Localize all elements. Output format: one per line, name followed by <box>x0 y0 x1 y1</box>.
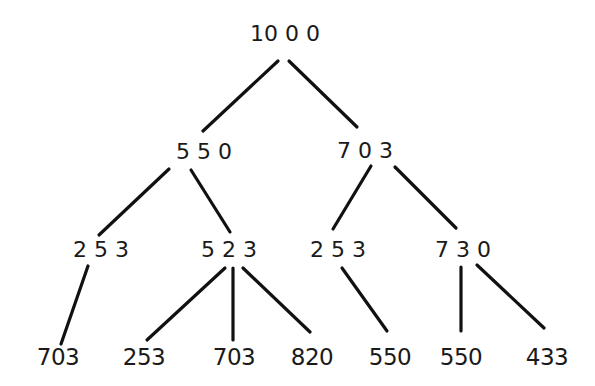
tree-edge-n2-n5 <box>333 166 371 229</box>
tree-edges <box>0 0 595 386</box>
node-level1-right: 7 0 3 <box>337 140 393 162</box>
tree-edge-n6-n13 <box>477 265 544 328</box>
leaf-node-1: 703 <box>37 346 79 368</box>
tree-edge-n4-n10 <box>243 268 310 332</box>
leaf-node-5: 550 <box>369 346 411 368</box>
leaf-node-2: 253 <box>123 346 165 368</box>
tree-edge-n0-n1 <box>203 61 278 131</box>
tree-edge-n3-n7 <box>61 266 88 344</box>
node-level1-left: 5 5 0 <box>176 141 232 163</box>
leaf-node-4: 820 <box>291 346 333 368</box>
tree-edge-n1-n4 <box>191 170 230 232</box>
tree-edge-n2-n6 <box>395 167 456 228</box>
tree-edge-n5-n11 <box>342 268 387 331</box>
leaf-node-6: 550 <box>440 346 482 368</box>
tree-edge-n4-n8 <box>147 268 225 340</box>
node-level2-4: 7 3 0 <box>435 239 491 261</box>
tree-edge-n0-n2 <box>289 61 357 127</box>
tree-edge-n1-n3 <box>99 169 169 235</box>
leaf-node-7: 433 <box>526 346 568 368</box>
root-node: 10 0 0 <box>250 23 320 45</box>
node-level2-2: 5 2 3 <box>201 239 257 261</box>
node-level2-3: 2 5 3 <box>310 239 366 261</box>
leaf-node-3: 703 <box>213 346 255 368</box>
state-space-tree: 10 0 0 5 5 0 7 0 3 2 5 3 5 2 3 2 5 3 7 3… <box>0 0 595 386</box>
node-level2-1: 2 5 3 <box>73 239 129 261</box>
